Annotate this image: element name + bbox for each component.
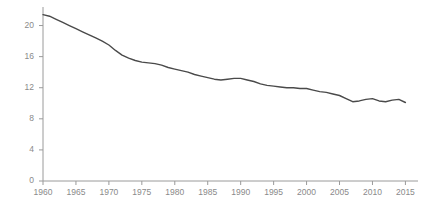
data-series-line bbox=[43, 15, 405, 103]
x-tick-label: 2015 bbox=[390, 188, 420, 197]
x-tick-label: 1985 bbox=[193, 188, 223, 197]
chart-tick-marks bbox=[39, 26, 405, 185]
y-tick-label: 12 bbox=[12, 83, 34, 92]
y-tick-label: 16 bbox=[12, 52, 34, 61]
x-tick-label: 1975 bbox=[127, 188, 157, 197]
x-tick-label: 1990 bbox=[226, 188, 256, 197]
x-tick-label: 2005 bbox=[325, 188, 355, 197]
chart-plot-area bbox=[0, 0, 426, 217]
x-tick-label: 2000 bbox=[292, 188, 322, 197]
x-tick-label: 1980 bbox=[160, 188, 190, 197]
y-tick-label: 20 bbox=[12, 21, 34, 30]
x-tick-label: 2010 bbox=[357, 188, 387, 197]
x-tick-label: 1995 bbox=[259, 188, 289, 197]
x-tick-label: 1965 bbox=[61, 188, 91, 197]
line-chart: 048121620 196019651970197519801985199019… bbox=[0, 0, 426, 217]
y-tick-label: 8 bbox=[12, 114, 34, 123]
y-tick-label: 4 bbox=[12, 145, 34, 154]
x-tick-label: 1960 bbox=[28, 188, 58, 197]
x-tick-label: 1970 bbox=[94, 188, 124, 197]
y-tick-label: 0 bbox=[12, 176, 34, 185]
chart-axes bbox=[43, 7, 418, 181]
